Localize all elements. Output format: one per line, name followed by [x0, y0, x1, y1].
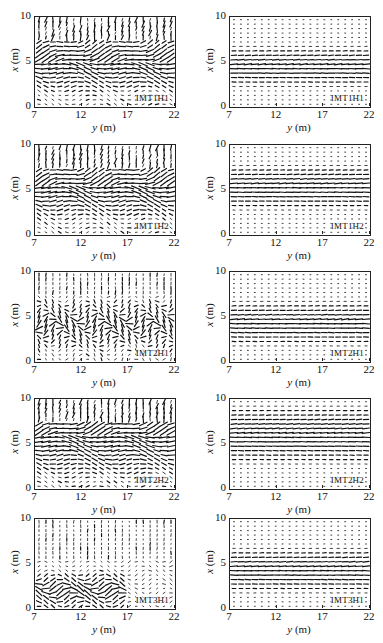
x-tick-mark: [81, 605, 82, 608]
x-tick-label: 12: [270, 364, 281, 375]
x-tick-label: 12: [75, 611, 86, 622]
x-tick-mark: [369, 485, 370, 488]
x-tick-label: 22: [169, 364, 180, 375]
y-tick-label: 0: [210, 482, 226, 493]
x-tick-label: 7: [226, 109, 232, 120]
x-tick-label: 17: [317, 611, 328, 622]
x-tick-mark: [322, 358, 323, 361]
x-tick-mark: [34, 358, 35, 361]
y-tick-label: 10: [15, 138, 31, 149]
x-tick-label: 17: [317, 491, 328, 502]
dataset-label: IMT2H2: [331, 475, 364, 485]
x-tick-label: 12: [270, 611, 281, 622]
y-tick-label: 0: [210, 355, 226, 366]
x-axis-label: y (m): [92, 503, 116, 515]
quiver-panel-r5: IMT3H105107121722y (m)x (m): [0, 0, 190, 127]
x-tick-mark: [127, 358, 128, 361]
x-tick-label: 12: [75, 237, 86, 248]
dataset-label: IMT1H1: [331, 93, 364, 103]
x-tick-label: 7: [31, 611, 37, 622]
x-tick-mark: [229, 485, 230, 488]
x-tick-label: 17: [122, 237, 133, 248]
x-tick-mark: [369, 605, 370, 608]
y-tick-label: 0: [15, 228, 31, 239]
x-tick-mark: [322, 605, 323, 608]
x-tick-mark: [369, 103, 370, 106]
x-tick-mark: [322, 485, 323, 488]
x-axis-label: y (m): [287, 249, 311, 261]
x-tick-label: 12: [75, 364, 86, 375]
y-tick-label: 0: [210, 228, 226, 239]
y-axis-label: x (m): [203, 422, 215, 462]
y-tick-label: 10: [210, 392, 226, 403]
dataset-label: IMT2H1: [331, 348, 364, 358]
plot-area: IMT2H1: [34, 271, 176, 363]
x-tick-mark: [229, 358, 230, 361]
x-axis-label: y (m): [92, 249, 116, 261]
x-tick-mark: [34, 485, 35, 488]
x-tick-label: 17: [122, 364, 133, 375]
dataset-label: IMT2H2: [136, 475, 169, 485]
x-tick-label: 22: [169, 237, 180, 248]
x-tick-label: 12: [270, 491, 281, 502]
x-tick-label: 22: [364, 364, 375, 375]
x-axis-label: y (m): [287, 376, 311, 388]
x-tick-label: 12: [270, 237, 281, 248]
x-tick-mark: [81, 358, 82, 361]
x-tick-label: 7: [31, 491, 37, 502]
x-tick-label: 17: [317, 364, 328, 375]
y-axis-label: x (m): [203, 295, 215, 335]
x-tick-label: 7: [226, 237, 232, 248]
dataset-label: IMT3H1: [136, 595, 169, 605]
y-tick-label: 0: [15, 482, 31, 493]
x-tick-label: 22: [364, 109, 375, 120]
x-tick-mark: [229, 103, 230, 106]
plot-area: IMT1H1: [229, 16, 371, 108]
x-tick-mark: [174, 605, 175, 608]
x-tick-mark: [229, 231, 230, 234]
x-tick-mark: [127, 605, 128, 608]
x-tick-label: 22: [364, 237, 375, 248]
plot-area: IMT2H1: [229, 271, 371, 363]
x-tick-mark: [174, 358, 175, 361]
x-tick-mark: [369, 358, 370, 361]
x-tick-mark: [276, 103, 277, 106]
x-tick-label: 7: [31, 237, 37, 248]
x-tick-label: 22: [169, 491, 180, 502]
dataset-label: IMT1H2: [331, 221, 364, 231]
x-axis-label: y (m): [287, 623, 311, 635]
x-tick-mark: [276, 358, 277, 361]
x-axis-label: y (m): [92, 623, 116, 635]
y-axis-label: x (m): [203, 40, 215, 80]
x-axis-label: y (m): [287, 121, 311, 133]
x-tick-mark: [127, 485, 128, 488]
x-tick-mark: [127, 231, 128, 234]
y-tick-label: 10: [15, 265, 31, 276]
x-tick-mark: [229, 605, 230, 608]
y-tick-label: 10: [210, 138, 226, 149]
x-axis-label: y (m): [92, 376, 116, 388]
y-tick-label: 10: [210, 512, 226, 523]
y-tick-label: 10: [210, 10, 226, 21]
x-tick-mark: [276, 485, 277, 488]
x-tick-label: 12: [75, 491, 86, 502]
x-tick-mark: [322, 103, 323, 106]
x-tick-label: 17: [317, 237, 328, 248]
x-tick-label: 22: [364, 491, 375, 502]
y-tick-label: 0: [210, 602, 226, 613]
x-tick-label: 22: [169, 611, 180, 622]
x-tick-label: 7: [226, 491, 232, 502]
x-tick-mark: [276, 231, 277, 234]
plot-area: IMT3H1: [34, 518, 176, 610]
dataset-label: IMT3H1: [331, 595, 364, 605]
x-tick-mark: [369, 231, 370, 234]
y-tick-label: 0: [210, 100, 226, 111]
x-tick-mark: [34, 605, 35, 608]
y-axis-label: x (m): [8, 542, 20, 582]
x-tick-label: 17: [122, 611, 133, 622]
plot-area: IMT3H1: [229, 518, 371, 610]
y-axis-label: x (m): [203, 542, 215, 582]
y-axis-label: x (m): [8, 168, 20, 208]
x-tick-mark: [174, 485, 175, 488]
x-tick-mark: [276, 605, 277, 608]
